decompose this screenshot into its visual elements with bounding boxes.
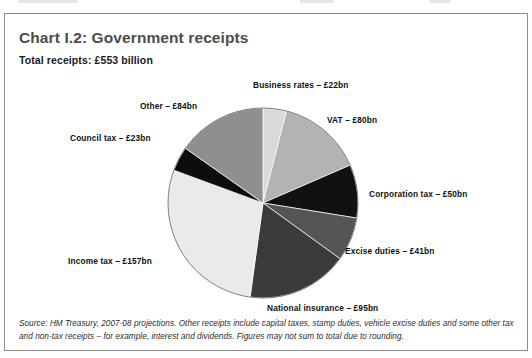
pie-slice-national-insurance xyxy=(250,203,340,298)
slice-label-income-tax: Income tax – £157bn xyxy=(68,256,152,266)
scan-artifact-band xyxy=(0,0,532,12)
slice-label-business-rates: Business rates – £22bn xyxy=(253,80,349,90)
chart-title: Chart I.2: Government receipts xyxy=(19,29,249,47)
chart-footnote: Source: HM Treasury, 2007-08 projections… xyxy=(19,318,519,343)
pie-slice-corporation-tax xyxy=(263,165,358,218)
pie-outline xyxy=(168,108,358,298)
slice-label-excise-duties: Excise duties – £41bn xyxy=(345,246,434,256)
pie-slice-income-tax xyxy=(168,170,263,297)
chart-subtitle: Total receipts: £553 billion xyxy=(19,54,153,66)
pie-slice-business-rates xyxy=(263,108,287,203)
slice-label-corporation-tax: Corporation tax – £50bn xyxy=(369,189,467,199)
pie-slices xyxy=(168,108,358,298)
slice-label-council-tax: Council tax – £23bn xyxy=(70,133,151,143)
chart-frame: Chart I.2: Government receipts Total rec… xyxy=(4,13,528,351)
slice-label-national-insurance: National insurance – £95bn xyxy=(267,303,378,313)
pie-slice-council-tax xyxy=(174,148,263,203)
pie-slice-excise-duties xyxy=(263,203,357,259)
slice-label-vat: VAT – £80bn xyxy=(327,115,377,125)
pie-slice-other xyxy=(185,108,263,203)
slice-label-other: Other – £84bn xyxy=(140,101,197,111)
